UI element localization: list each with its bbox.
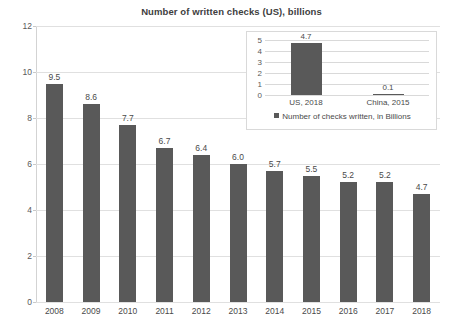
chart-screenshot: Number of written checks (US), billions … [0, 0, 463, 334]
bar [193, 155, 210, 302]
y-axis-tick-label: 12 [2, 21, 32, 31]
x-axis-tick-label: 2013 [218, 306, 258, 316]
inset-bar [291, 43, 322, 95]
inset-y-axis-tick-label: 3 [251, 58, 262, 67]
inset-y-axis-tick-label: 2 [251, 69, 262, 78]
bar-value-label: 5.2 [370, 170, 400, 180]
x-axis-tick-label: 2010 [108, 306, 148, 316]
x-axis-tick-label: 2015 [291, 306, 331, 316]
gridline [36, 26, 440, 27]
bar-value-label: 5.7 [260, 159, 290, 169]
inset-x-axis-tick-label: China, 2015 [353, 98, 423, 107]
x-axis-tick-label: 2017 [365, 306, 405, 316]
y-axis-tick-label: 8 [2, 113, 32, 123]
inset-legend: Number of checks written, in Billions [247, 112, 438, 121]
bar [156, 148, 173, 302]
x-axis-tick-label: 2018 [402, 306, 442, 316]
bar-value-label: 4.7 [407, 182, 437, 192]
x-axis-tick-label: 2012 [181, 306, 221, 316]
bar [266, 171, 283, 302]
legend-entry-label: Number of checks written, in Billions [282, 112, 411, 121]
bar [83, 104, 100, 302]
inset-y-axis-tick-label: 0 [251, 91, 262, 100]
inset-y-axis-tick-label: 5 [251, 36, 262, 45]
page-title: Number of written checks (US), billions [0, 6, 463, 17]
bar [46, 84, 63, 303]
inset-bar-value-label: 0.1 [368, 83, 408, 92]
gridline [36, 302, 440, 303]
x-axis-tick-label: 2011 [145, 306, 185, 316]
bar [340, 182, 357, 302]
bar-value-label: 5.5 [296, 164, 326, 174]
bar-value-label: 7.7 [113, 113, 143, 123]
bar-value-label: 6.0 [223, 152, 253, 162]
inset-chart-panel: 4.70.1 012345 US, 2018China, 2015 Number… [246, 31, 437, 130]
y-axis-tick-label: 4 [2, 205, 32, 215]
legend-swatch-icon [274, 113, 279, 118]
y-axis-tick-label: 6 [2, 159, 32, 169]
x-axis-tick-label: 2009 [71, 306, 111, 316]
inset-x-axis-tick-label: US, 2018 [271, 98, 341, 107]
y-axis-tick-labels: 024681012 [0, 26, 32, 303]
bar [413, 194, 430, 302]
inset-plot-area: 4.70.1 [265, 40, 429, 95]
inset-gridline [265, 95, 429, 96]
inset-y-axis-tick-label: 4 [251, 47, 262, 56]
bar-value-label: 6.4 [186, 143, 216, 153]
x-axis-tick-label: 2014 [255, 306, 295, 316]
y-axis-tick-label: 0 [2, 297, 32, 307]
inset-y-axis-tick-label: 1 [251, 80, 262, 89]
bar [303, 176, 320, 303]
inset-bar-value-label: 4.7 [286, 32, 326, 41]
x-axis-tick-label: 2008 [34, 306, 74, 316]
bar [230, 164, 247, 302]
y-axis-tick-label: 10 [2, 67, 32, 77]
bar-value-label: 9.5 [39, 72, 69, 82]
bar-value-label: 8.6 [76, 92, 106, 102]
bar-value-label: 5.2 [333, 170, 363, 180]
bar-value-label: 6.7 [150, 136, 180, 146]
inset-bar [373, 94, 404, 95]
bar [376, 182, 393, 302]
x-axis-tick-label: 2016 [328, 306, 368, 316]
y-axis-tick-label: 2 [2, 251, 32, 261]
bar [119, 125, 136, 302]
